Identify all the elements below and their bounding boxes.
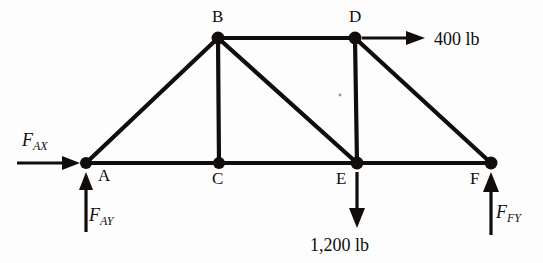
truss-diagram: A B C D E F FAX FAY FFY 400 lb 1,200 lb (0, 0, 543, 263)
load-arrow-1200 (349, 172, 365, 228)
truss-members (86, 38, 491, 163)
force-label-ffy: FFY (495, 202, 522, 225)
scan-speck (339, 94, 342, 97)
joint-dot-E (351, 157, 364, 170)
member-DF (355, 38, 491, 163)
load-arrow-400 (362, 31, 425, 45)
force-label-fax-subscript: AX (32, 139, 48, 153)
force-arrow-fax (17, 156, 80, 170)
member-BE (218, 38, 357, 163)
load-1200-head (349, 208, 365, 228)
member-DE (355, 38, 357, 163)
joint-dot-C (213, 157, 225, 169)
force-fay-head (79, 172, 93, 190)
joint-label-C: C (212, 169, 223, 188)
joint-dot-B (212, 32, 225, 45)
load-label-1200: 1,200 lb (310, 235, 369, 255)
joint-dot-D (349, 32, 362, 45)
joint-label-D: D (349, 7, 361, 26)
joint-label-E: E (336, 169, 346, 188)
joint-dot-A (80, 157, 92, 169)
member-AB (86, 38, 218, 163)
force-label-ffy-subscript: FY (506, 211, 522, 225)
force-label-fax: FAX (21, 130, 48, 153)
joint-label-B: B (212, 7, 223, 26)
force-ffy-head (483, 172, 499, 192)
load-label-400: 400 lb (434, 29, 480, 49)
load-400-head (406, 31, 425, 45)
joint-label-F: F (470, 169, 479, 188)
force-fax-head (62, 156, 80, 170)
force-label-fay: FAY (88, 205, 115, 228)
member-BC (218, 38, 219, 163)
joint-dot-F (485, 157, 498, 170)
force-label-fay-subscript: AY (99, 214, 115, 228)
joint-label-A: A (98, 166, 111, 185)
